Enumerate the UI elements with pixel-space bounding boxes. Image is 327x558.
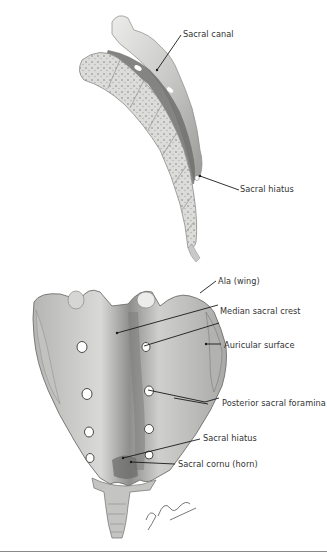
label-median-sacral-crest: Median sacral crest [220, 306, 301, 316]
lateral-sacrum-view [79, 16, 202, 262]
label-sacral-hiatus-posterior: Sacral hiatus [203, 433, 257, 443]
sacrum-illustration [0, 0, 327, 558]
sacrum-figure: Sacral canal Sacral hiatus Ala (wing) Me… [0, 0, 327, 558]
label-sacral-canal: Sacral canal [183, 29, 234, 39]
label-sacral-cornu: Sacral cornu (horn) [178, 459, 258, 469]
label-ala: Ala (wing) [218, 276, 260, 286]
label-auricular-surface: Auricular surface [224, 340, 295, 350]
horizontal-rule [0, 551, 327, 552]
signature [146, 502, 196, 530]
label-sacral-hiatus-lateral: Sacral hiatus [240, 184, 294, 194]
label-posterior-sacral-foramina: Posterior sacral foramina [222, 398, 326, 408]
posterior-sacrum-view [33, 290, 227, 538]
